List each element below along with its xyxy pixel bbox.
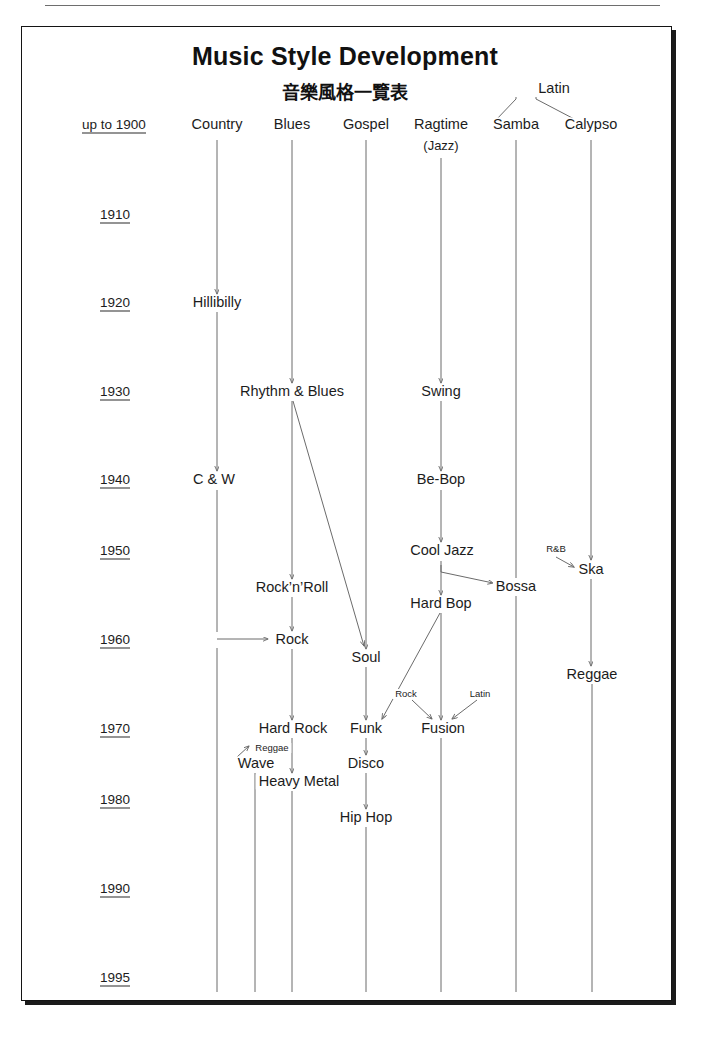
genre-node-cool-jazz: Cool Jazz (407, 543, 477, 558)
genre-node-fusion: Fusion (418, 721, 468, 736)
genre-node-reggae: Reggae (564, 667, 621, 682)
year-label-1910: 1910 (100, 207, 130, 224)
line-rnb-to-soul (293, 401, 364, 646)
year-label-1980: 1980 (100, 792, 130, 809)
year-label-1940: 1940 (100, 472, 130, 489)
genre-node-rock: Rock (272, 632, 311, 647)
influence-note-reggae: Reggae (252, 743, 291, 753)
genre-node-bossa: Bossa (493, 579, 539, 594)
year-label-1990: 1990 (100, 881, 130, 898)
genre-node-soul: Soul (348, 650, 383, 665)
genre-node-rocknroll: Rock’n’Roll (253, 580, 332, 595)
genre-node-country: Country (189, 117, 246, 132)
page-subtitle-chinese: 音樂風格一覽表 (0, 78, 690, 104)
genre-node-ragtime: Ragtime (411, 117, 471, 132)
genre-node-disco: Disco (345, 756, 387, 771)
year-label-1995: 1995 (100, 970, 130, 987)
genre-node-heavy-metal: Heavy Metal (256, 774, 343, 789)
influence-note-latin: Latin (467, 689, 494, 699)
year-label-1920: 1920 (100, 295, 130, 312)
genre-node-hip-hop: Hip Hop (337, 810, 395, 825)
line-cooljazz-bossa (441, 565, 493, 583)
genre-node-cw: C & W (190, 472, 238, 487)
genre-node-hard-rock: Hard Rock (256, 721, 331, 736)
genre-node-gospel: Gospel (340, 117, 392, 132)
line-rnb-note-to-ska (556, 557, 574, 567)
genre-node-funk: Funk (347, 721, 385, 736)
genre-node-jazz: (Jazz) (420, 139, 461, 153)
genre-node-ska: Ska (576, 562, 607, 577)
genre-node-swing: Swing (418, 384, 464, 399)
year-label-1950: 1950 (100, 543, 130, 560)
genre-node-samba: Samba (490, 117, 542, 132)
line-rock-note-to-fusion (412, 700, 432, 719)
genre-node-wave: Wave (235, 756, 278, 771)
group-label-latin: Latin (535, 81, 572, 96)
genre-node-hard-bop: Hard Bop (407, 596, 474, 611)
chart-page: Music Style Development 音樂風格一覽表 up to 19… (0, 0, 704, 1045)
year-label-up-to-1900: up to 1900 (82, 117, 146, 134)
genre-node-blues: Blues (271, 117, 313, 132)
year-label-1930: 1930 (100, 384, 130, 401)
genre-node-hillibilly: Hillibilly (190, 295, 244, 310)
influence-note-rnb: R&B (543, 544, 569, 554)
page-title: Music Style Development (0, 42, 690, 71)
genre-node-bebop: Be-Bop (414, 472, 468, 487)
genre-node-rhythm-and-blues: Rhythm & Blues (237, 384, 347, 399)
influence-note-rock: Rock (392, 689, 420, 699)
genre-node-calypso: Calypso (562, 117, 620, 132)
year-label-1970: 1970 (100, 721, 130, 738)
line-hardbop-funk (382, 613, 440, 719)
year-label-1960: 1960 (100, 632, 130, 649)
line-latin-note-to-fusion (452, 700, 477, 719)
